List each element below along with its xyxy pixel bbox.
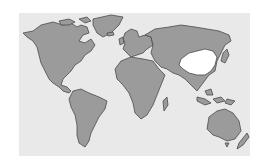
tasmania [225, 143, 229, 147]
australia [207, 109, 241, 141]
world-map-svg [19, 13, 250, 156]
madagascar [163, 97, 168, 111]
new-zealand [237, 133, 249, 149]
british-isles [119, 37, 124, 45]
iceland [107, 32, 114, 36]
arctic-islands [59, 17, 91, 25]
world-map [19, 13, 250, 156]
southeast-asia-islands [197, 89, 235, 105]
south-america [69, 89, 107, 147]
north-america [23, 22, 95, 93]
africa [115, 57, 165, 119]
